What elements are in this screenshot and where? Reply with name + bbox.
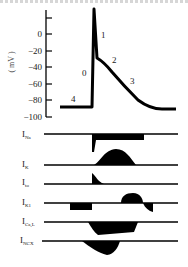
y-tick-label: −80	[28, 95, 43, 105]
y-tick-label: −100	[23, 112, 42, 122]
phase-label-3: 3	[130, 76, 135, 86]
svg-text:Ito: Ito	[22, 177, 29, 188]
phase-label-0: 0	[82, 68, 87, 78]
current-trace-ical: ICa,L	[22, 216, 178, 235]
current-trace-ito: Ito	[22, 173, 178, 188]
y-tick-label: −40	[28, 62, 43, 72]
y-tick-label: −20	[28, 46, 43, 56]
y-tick-label: −60	[28, 79, 43, 89]
current-trace-ik1: IK1	[22, 193, 178, 212]
svg-text:INCX: INCX	[20, 235, 34, 246]
y-axis-unit-label: ( mV )	[7, 51, 16, 73]
svg-text:IK1: IK1	[22, 197, 32, 208]
svg-text:INa: INa	[22, 129, 32, 140]
y-axis: 0 −20 −40 −60 −80 −100 ( mV )	[7, 10, 52, 122]
current-trace-ina: INa	[22, 129, 178, 152]
phase-label-2: 2	[112, 55, 117, 65]
action-potential-trace	[60, 9, 176, 109]
action-potential-figure: 0 −20 −40 −60 −80 −100 ( mV ) 0 1 2 3 4 …	[0, 0, 188, 267]
phase-label-4: 4	[71, 94, 76, 104]
current-trace-ik: IK	[22, 149, 178, 170]
phase-label-1: 1	[101, 30, 106, 40]
svg-text:ICa,L: ICa,L	[22, 216, 35, 228]
current-trace-incx: INCX	[20, 235, 178, 255]
svg-text:IK: IK	[22, 159, 29, 170]
y-tick-label: 0	[38, 29, 43, 39]
